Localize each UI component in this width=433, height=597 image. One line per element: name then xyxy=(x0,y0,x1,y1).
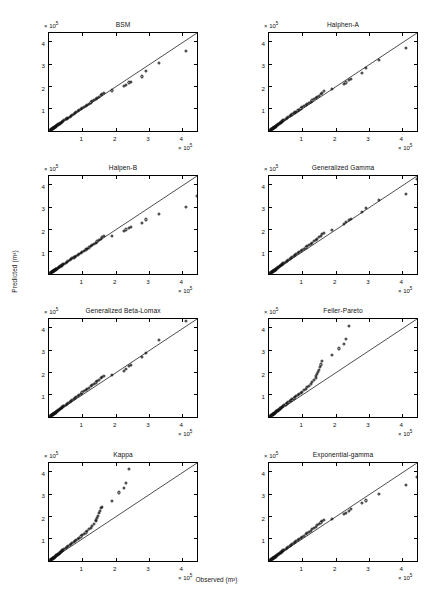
data-point xyxy=(184,319,187,322)
data-point xyxy=(377,199,380,202)
y-axis-tick xyxy=(194,494,197,495)
y-axis-multiplier: × 105 xyxy=(44,164,58,172)
x-axis-tick-label: 1 xyxy=(300,135,303,142)
y-axis-tick xyxy=(269,394,272,395)
subplot-title: BSM xyxy=(48,21,198,28)
y-axis-tick xyxy=(414,372,417,373)
x-axis-tick xyxy=(369,33,370,36)
x-axis-tick xyxy=(116,463,117,466)
x-axis-tick xyxy=(402,33,403,36)
x-axis-tick xyxy=(336,33,337,36)
subplot-title: Exponential-gamma xyxy=(268,451,418,458)
data-point xyxy=(129,364,132,367)
x-axis-tick-label: 4 xyxy=(400,278,403,285)
x-axis-tick xyxy=(336,558,337,561)
y-axis-tick xyxy=(414,327,417,328)
y-axis-tick-label: 2 xyxy=(37,84,45,91)
data-point xyxy=(144,351,147,354)
y-axis-tick xyxy=(49,394,52,395)
x-axis-tick-label: 1 xyxy=(300,421,303,428)
data-point xyxy=(102,374,105,377)
plot-axes xyxy=(48,318,198,418)
y-axis-multiplier: × 105 xyxy=(264,21,278,29)
y-axis-tick xyxy=(194,207,197,208)
x-axis-tick xyxy=(336,271,337,274)
y-axis-tick xyxy=(194,372,197,373)
y-axis-tick xyxy=(49,538,52,539)
data-point xyxy=(349,78,352,81)
x-axis-tick xyxy=(402,128,403,131)
y-axis-tick xyxy=(269,229,272,230)
x-axis-tick-label: 2 xyxy=(333,135,336,142)
y-axis-tick-label: 1 xyxy=(257,106,265,113)
plot-axes xyxy=(268,32,418,132)
y-axis-tick xyxy=(414,494,417,495)
x-axis-tick-label: 1 xyxy=(80,135,83,142)
x-axis-tick xyxy=(182,176,183,179)
y-axis-tick-label: 4 xyxy=(257,326,265,333)
plot-area xyxy=(269,176,417,274)
x-axis-tick-label: 4 xyxy=(400,421,403,428)
data-point xyxy=(331,354,334,357)
y-axis-tick xyxy=(269,516,272,517)
figure-y-axis-label: Predicted (m³) xyxy=(11,227,18,317)
x-axis-tick xyxy=(369,558,370,561)
x-axis-tick xyxy=(116,414,117,417)
y-axis-tick xyxy=(414,184,417,185)
subplot-title: Kappa xyxy=(48,451,198,458)
y-axis-tick-label: 3 xyxy=(37,348,45,355)
y-axis-tick-label: 2 xyxy=(257,84,265,91)
x-axis-tick-label: 2 xyxy=(333,278,336,285)
y-axis-tick-label: 2 xyxy=(257,514,265,521)
y-axis-tick xyxy=(414,350,417,351)
y-axis-multiplier: × 105 xyxy=(44,307,58,315)
y-axis-tick xyxy=(194,251,197,252)
x-axis-tick xyxy=(302,414,303,417)
y-axis-tick xyxy=(194,471,197,472)
x-axis-tick-label: 2 xyxy=(333,421,336,428)
data-point xyxy=(141,356,144,359)
data-point xyxy=(416,475,417,478)
plot-axes xyxy=(48,32,198,132)
x-axis-tick xyxy=(82,33,83,36)
data-point xyxy=(404,46,407,49)
y-axis-tick xyxy=(194,229,197,230)
plot-axes xyxy=(48,462,198,562)
y-axis-tick xyxy=(269,251,272,252)
x-axis-tick xyxy=(182,414,183,417)
plot-axes xyxy=(268,462,418,562)
y-axis-tick xyxy=(49,41,52,42)
figure-x-axis-label: Observed (m³) xyxy=(0,576,433,583)
data-point xyxy=(331,517,334,520)
data-point xyxy=(404,483,407,486)
y-axis-tick xyxy=(414,251,417,252)
y-axis-tick xyxy=(194,516,197,517)
x-axis-tick-label: 3 xyxy=(146,135,149,142)
subplot-title: Generalized Gamma xyxy=(268,164,418,171)
x-axis-tick-label: 1 xyxy=(80,565,83,572)
x-axis-tick xyxy=(82,463,83,466)
data-point xyxy=(318,366,321,369)
data-point xyxy=(125,481,128,484)
x-axis-tick xyxy=(369,128,370,131)
x-axis-tick xyxy=(82,271,83,274)
subplot-title: Feller-Pareto xyxy=(268,307,418,314)
data-point xyxy=(111,234,114,237)
data-point xyxy=(157,62,160,65)
y-axis-tick-label: 4 xyxy=(257,183,265,190)
x-axis-tick xyxy=(302,271,303,274)
x-axis-tick-label: 3 xyxy=(366,135,369,142)
x-axis-tick-label: 3 xyxy=(366,565,369,572)
y-axis-tick xyxy=(194,538,197,539)
data-point xyxy=(319,363,322,366)
data-point xyxy=(196,194,197,197)
data-point xyxy=(377,492,380,495)
x-axis-tick xyxy=(402,176,403,179)
y-axis-multiplier: × 105 xyxy=(44,451,58,459)
y-axis-tick xyxy=(49,86,52,87)
x-axis-tick-label: 1 xyxy=(80,278,83,285)
y-axis-tick xyxy=(414,471,417,472)
y-axis-tick xyxy=(269,471,272,472)
x-axis-tick xyxy=(402,558,403,561)
data-point xyxy=(322,90,325,93)
